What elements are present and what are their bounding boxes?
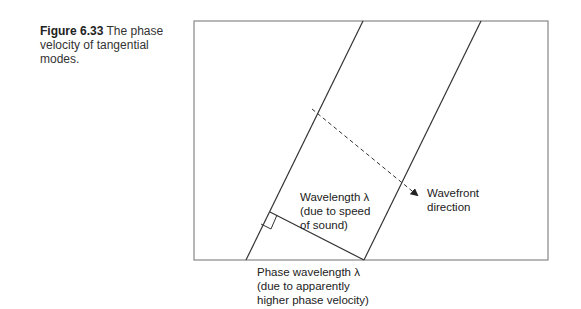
wavelength-label-line: of sound) [300,218,370,232]
wavefront-line-right [364,21,481,260]
wave-diagram [0,0,581,309]
wavefront-label-line: Wavefront [427,186,479,200]
wavefront-direction-label: Wavefront direction [427,186,479,214]
phase-label-line: (due to apparently [257,279,369,293]
phase-label-line: Phase wavelength λ [257,265,369,279]
wavelength-label: Wavelength λ (due to speed of sound) [300,190,370,232]
diagram-frame [194,21,548,260]
wavelength-label-line: (due to speed [300,204,370,218]
phase-wavelength-label: Phase wavelength λ (due to apparently hi… [257,265,369,307]
wavefront-direction-arrow [312,109,417,195]
wavefront-label-line: direction [427,200,479,214]
right-angle-marker [261,215,277,229]
phase-label-line: higher phase velocity) [257,293,369,307]
wavelength-label-line: Wavelength λ [300,190,370,204]
